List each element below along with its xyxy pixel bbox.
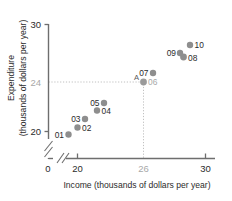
data-point-highlighted[interactable]	[140, 79, 147, 86]
y-axis-break-mark-2	[45, 147, 53, 157]
y-axis-title-line1: Expenditure	[6, 55, 16, 101]
data-points-group: 01 02 03 04 05 06 A 07 08	[55, 40, 204, 140]
data-point-label: 09	[167, 48, 177, 58]
y-axis-title-line2: (thousands of dollars per year)	[18, 20, 28, 137]
data-point-label: 02	[82, 123, 92, 133]
data-point[interactable]	[177, 50, 183, 56]
y-tick-label-20: 20	[30, 126, 41, 137]
x-tick-label-30: 30	[200, 163, 211, 174]
x-axis	[49, 153, 216, 163]
x-tick-label-20: 20	[72, 163, 83, 174]
data-point-label: 01	[55, 130, 65, 140]
data-point[interactable]	[65, 131, 71, 137]
x-tick-labels: 0 20 26 30	[45, 163, 210, 174]
data-point-label: 05	[90, 98, 100, 108]
data-point-label: 08	[188, 53, 198, 63]
y-tick-label-24: 24	[30, 77, 41, 88]
x-tick-label-26: 26	[138, 163, 149, 174]
data-point[interactable]	[101, 100, 107, 106]
data-point-label: 07	[139, 68, 149, 78]
y-axis	[45, 24, 53, 159]
y-axis-break-mark-1	[45, 141, 53, 151]
data-point-label: 03	[71, 114, 81, 124]
x-axis-title: Income (thousands of dollars per year)	[63, 180, 210, 190]
data-point[interactable]	[94, 107, 100, 113]
y-tick-label-30: 30	[30, 19, 41, 30]
x-tick-label-0: 0	[45, 163, 50, 174]
data-point[interactable]	[187, 42, 193, 48]
data-point[interactable]	[82, 116, 88, 122]
data-point[interactable]	[150, 70, 156, 76]
y-tick-labels: 30 24 20	[30, 19, 41, 137]
data-point[interactable]	[74, 124, 80, 130]
data-point-label: 10	[195, 40, 205, 50]
data-point-label-highlighted: 06	[148, 77, 158, 87]
scatter-plot-figure: 30 24 20 0 20 26 30 Income (thousands of…	[0, 0, 232, 201]
guide-lines	[49, 82, 144, 158]
chart-svg: 30 24 20 0 20 26 30 Income (thousands of…	[0, 0, 232, 201]
data-point-label: 04	[102, 106, 112, 116]
